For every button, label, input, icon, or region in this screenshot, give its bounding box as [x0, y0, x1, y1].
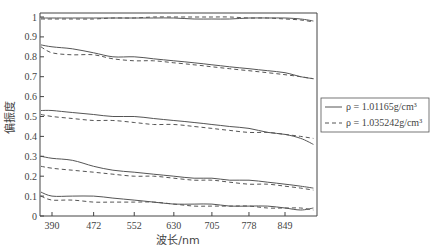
series-line-solid-8 — [41, 192, 313, 210]
series-line-dashed-3 — [41, 47, 313, 79]
plot-lines — [41, 17, 313, 210]
x-tick-label: 552 — [127, 220, 142, 231]
legend-dashed-label: ρ = 1.035242g/cm³ — [346, 117, 422, 128]
y-axis-title: 偏振度 — [3, 101, 17, 134]
series-line-solid-6 — [41, 156, 313, 188]
y-tick-label: 0.1 — [25, 191, 38, 202]
x-tick-label: 472 — [86, 220, 101, 231]
legend: ρ = 1.01165g/cm³ ρ = 1.035242g/cm³ — [321, 98, 429, 132]
y-tick-label: 0.6 — [25, 91, 38, 102]
x-tick-label: 778 — [241, 220, 256, 231]
axes: 00.10.20.30.40.50.60.70.80.9139047255263… — [25, 12, 318, 232]
x-tick-label: 705 — [204, 220, 219, 231]
y-tick-label: 0 — [32, 211, 37, 222]
legend-solid-label: ρ = 1.01165g/cm³ — [346, 101, 417, 112]
x-axis-title: 波长/nm — [156, 234, 199, 247]
x-tick-label: 390 — [45, 220, 60, 231]
x-tick-label: 849 — [278, 220, 293, 231]
y-tick-label: 0.9 — [25, 31, 38, 42]
y-tick-label: 1 — [32, 12, 37, 23]
polarization-chart: 00.10.20.30.40.50.60.70.80.9139047255263… — [0, 0, 435, 250]
series-line-dashed-7 — [41, 166, 313, 190]
y-tick-label: 0.8 — [25, 51, 38, 62]
y-tick-label: 0.4 — [25, 131, 38, 142]
series-line-solid-4 — [41, 110, 313, 144]
y-tick-label: 0.7 — [25, 71, 38, 82]
y-tick-label: 0.5 — [25, 111, 38, 122]
series-line-dashed-9 — [41, 196, 313, 210]
y-tick-label: 0.2 — [25, 171, 38, 182]
series-line-dashed-5 — [41, 115, 313, 139]
x-tick-label: 630 — [166, 220, 181, 231]
y-tick-label: 0.3 — [25, 151, 38, 162]
